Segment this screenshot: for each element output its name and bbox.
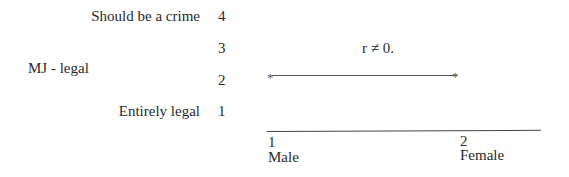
x-category-female: Female [460, 147, 504, 164]
x-category-male: Male [268, 149, 299, 166]
y-tick-2: 2 [218, 72, 226, 89]
data-point-male: * [267, 71, 274, 84]
y-bottom-description: Entirely legal [40, 103, 200, 120]
y-tick-1: 1 [218, 103, 226, 120]
correlation-annotation: r ≠ 0. [362, 40, 394, 57]
y-tick-4: 4 [218, 8, 226, 25]
y-top-description: Should be a crime [40, 8, 200, 25]
y-tick-3: 3 [218, 40, 226, 57]
y-axis-title: MJ - legal [28, 60, 89, 77]
series-line [272, 75, 457, 76]
x-axis-line [267, 130, 541, 132]
data-point-female: * [452, 70, 459, 83]
